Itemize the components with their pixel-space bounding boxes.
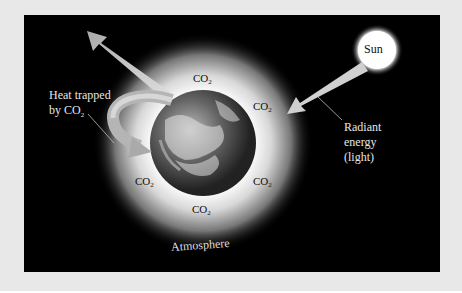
co2-label-upper-right: CO2	[253, 100, 272, 114]
heat-subscript: 2	[81, 111, 85, 119]
co2-label-left: CO2	[135, 175, 154, 189]
heat-line-2-text: by CO	[49, 103, 81, 117]
co2-label-top: CO2	[193, 72, 212, 86]
co2-label-bottom: CO2	[192, 203, 211, 217]
radiant-leader-line	[318, 97, 342, 120]
radiant-line-3: (light)	[344, 150, 381, 165]
earth-globe	[150, 90, 256, 196]
co2-label-lower-right: CO2	[253, 175, 272, 189]
radiant-line-1: Radiant	[344, 120, 381, 135]
heat-trapped-label: Heat trapped by CO2	[49, 88, 111, 123]
heat-line-2: by CO2	[49, 103, 111, 123]
sun-label: Sun	[364, 42, 383, 57]
radiant-energy-label: Radiant energy (light)	[344, 120, 381, 165]
radiant-line-2: energy	[344, 135, 381, 150]
heat-line-1: Heat trapped	[49, 88, 111, 103]
